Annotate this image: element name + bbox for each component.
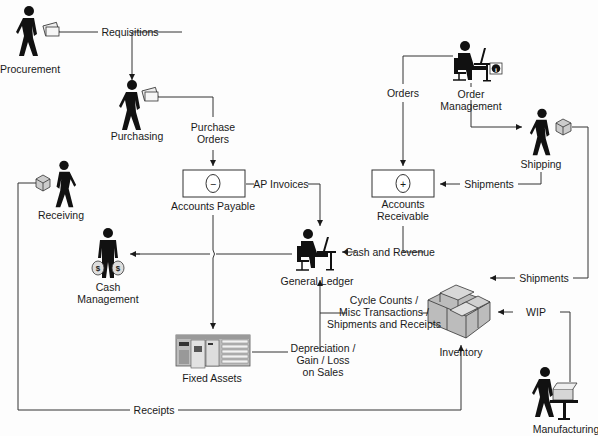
flow-ap-invoices: AP Invoices [253, 178, 308, 190]
flow-wip: WIP [526, 306, 546, 318]
person-icon [532, 367, 554, 417]
box-icon [36, 175, 50, 191]
plus-symbol: + [400, 178, 406, 190]
node-shipping[interactable]: Shipping [521, 109, 571, 170]
person-icon [56, 161, 77, 208]
line-om-to-orders [403, 56, 453, 84]
flow-cycle-counts-1: Cycle Counts / [350, 294, 418, 306]
line-shipping-to-shipments-inv [572, 127, 588, 278]
node-receiving[interactable]: Receiving [36, 161, 84, 221]
line-manufacturing-to-wip [560, 312, 570, 382]
line-ap-to-fixed-assets [213, 215, 215, 329]
flow-depreciation-3: on Sales [303, 366, 344, 378]
dollar-left: $ [96, 264, 101, 273]
flow-receipts: Receipts [134, 404, 175, 416]
box-icon [556, 119, 571, 135]
person-icon [16, 6, 38, 56]
diagram-canvas: Procurement Purchasing − Accounts Payabl… [0, 0, 598, 436]
flow-shipments-inventory: Shipments [519, 272, 569, 284]
label-cash-management-2: Management [77, 293, 138, 305]
line-purchasing-to-po [157, 97, 213, 117]
node-accounts-payable[interactable]: − Accounts Payable [171, 170, 255, 212]
label-cash-management-1: Cash [96, 281, 121, 293]
flow-orders: Orders [387, 87, 419, 99]
person-icon [530, 109, 551, 156]
info-symbol: i [495, 66, 497, 74]
label-order-management-1: Order [458, 88, 485, 100]
node-general-ledger[interactable]: General Ledger [281, 229, 354, 287]
flow-shipments-ar: Shipments [464, 178, 514, 190]
label-manufacturing: Manufacturing [533, 423, 598, 435]
label-inventory: Inventory [439, 346, 483, 358]
node-order-management[interactable]: i Order Management [440, 41, 502, 112]
line-shipping-to-shipments [518, 172, 541, 184]
oracle-erp-flow-diagram: Procurement Purchasing − Accounts Payabl… [0, 0, 598, 436]
boxes-stack-icon [428, 285, 490, 338]
flow-depreciation-1: Depreciation / [291, 342, 356, 354]
minus-symbol: − [210, 178, 216, 190]
node-accounts-receivable[interactable]: + Accounts Receivable [372, 170, 434, 222]
node-procurement[interactable]: Procurement [0, 6, 60, 75]
flow-labels: Requisitions Purchase Orders AP Invoices… [101, 26, 568, 416]
money-bag-icon: $ $ [92, 261, 124, 275]
server-rack-icon [176, 335, 250, 368]
label-fixed-assets: Fixed Assets [182, 372, 242, 384]
flow-purchase-orders-2: Orders [197, 133, 229, 145]
info-icon: i [490, 63, 502, 74]
node-fixed-assets[interactable]: Fixed Assets [176, 335, 250, 384]
desk-worker-icon [296, 229, 336, 271]
node-cash-management[interactable]: $ $ Cash Management [77, 228, 138, 305]
dollar-right: $ [116, 264, 121, 273]
workbench-icon [550, 383, 578, 420]
label-receiving: Receiving [38, 209, 84, 221]
label-accounts-receivable-2: Receivable [377, 210, 429, 222]
label-shipping: Shipping [521, 158, 562, 170]
node-purchasing[interactable]: Purchasing [111, 80, 164, 142]
label-accounts-payable: Accounts Payable [171, 200, 255, 212]
label-accounts-receivable-1: Accounts [381, 198, 424, 210]
flow-cash-and-revenue: Cash and Revenue [345, 246, 435, 258]
flow-purchase-orders-1: Purchase [191, 121, 236, 133]
node-manufacturing[interactable]: Manufacturing [532, 367, 598, 435]
label-purchasing: Purchasing [111, 130, 164, 142]
flow-requisitions: Requisitions [101, 26, 158, 38]
label-order-management-2: Management [440, 100, 501, 112]
flow-depreciation-2: Gain / Loss [296, 354, 349, 366]
line-requisitions-to-purchasing [132, 32, 182, 80]
flow-cycle-counts-3: Shipments and Receipts [327, 318, 441, 330]
label-general-ledger: General Ledger [281, 275, 354, 287]
label-procurement: Procurement [0, 63, 60, 75]
paper-stack-icon [142, 87, 158, 101]
flow-cycle-counts-2: Misc Transactions / [339, 306, 429, 318]
desk-worker-icon [453, 41, 492, 82]
person-icon [119, 80, 141, 130]
line-ap-invoices-to-gl [308, 184, 320, 226]
paper-stack-icon [43, 22, 59, 36]
